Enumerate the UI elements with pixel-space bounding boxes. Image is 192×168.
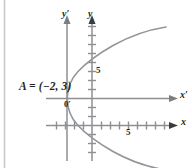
x-axis-label: x [181,117,186,127]
parabola-curve-group [67,27,166,168]
y-axis-tick-label-5: 5 [96,66,101,75]
origin-prime-label: 0′ [64,100,71,109]
coordinate-plane-figure: A = (−2, 3) y′ y x′ x 0′ 5 5 [0,0,192,168]
y-axis-label: y [88,9,92,19]
x-prime-axis-label: x′ [180,90,188,100]
x-prime-axis-arrow [169,95,178,102]
point-a-label: A = (−2, 3) [19,81,71,93]
parabola-lower-branch [67,99,166,168]
x-axis-tick-label-5: 5 [126,128,131,137]
parabola-upper-branch [67,27,166,98]
x-axis-arrow [169,122,178,129]
y-prime-axis-label: y′ [62,9,69,19]
